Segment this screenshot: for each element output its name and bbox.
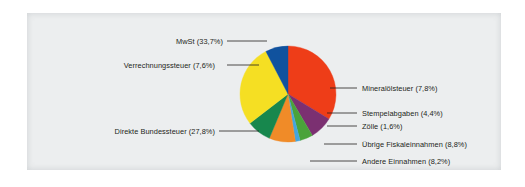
pie-label-mineraloelsteuer: Mineralölsteuer (7,8%) [362,84,437,93]
pie-label-direkte-bundessteuer: Direkte Bundessteuer (27,8%) [115,127,215,136]
pie-slice-group [240,46,336,142]
pie-label-zoelle: Zölle (1,6%) [362,122,402,131]
pie-label-uebrige-fiskaleinnahmen: Übrige Fiskaleinnahmen (8,8%) [362,140,467,149]
pie-label-andere-einnahmen: Andere Einnahmen (8,2%) [362,157,450,166]
pie-label-verrechnungssteuer: Verrechnungssteuer (7,6%) [124,61,215,70]
pie-label-mwst: MwSt (33,7%) [176,37,223,46]
pie-label-stempelabgaben: Stempelabgaben (4,4%) [362,109,443,118]
chart-panel: MwSt (33,7%) Verrechnungssteuer (7,6%) D… [27,13,501,170]
